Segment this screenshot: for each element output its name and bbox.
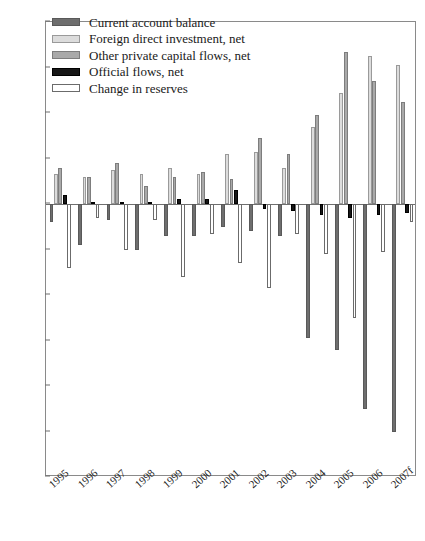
bar bbox=[153, 204, 157, 220]
chart-container: 806040200−20−40−60−80−100−120 1995199619… bbox=[0, 0, 425, 541]
bar bbox=[353, 204, 357, 318]
legend-item: Other private capital flows, net bbox=[52, 47, 282, 64]
legend-item: Foreign direct investment, net bbox=[52, 31, 282, 48]
y-axis-tick-mark bbox=[45, 112, 50, 113]
legend-swatch-icon bbox=[52, 35, 80, 43]
bar bbox=[78, 204, 82, 245]
bar-group bbox=[331, 22, 360, 475]
bar bbox=[111, 170, 115, 204]
bar bbox=[210, 204, 214, 234]
bar bbox=[339, 93, 343, 204]
bar bbox=[267, 204, 271, 288]
bar-group bbox=[388, 22, 417, 475]
bar bbox=[278, 204, 282, 236]
bar bbox=[396, 65, 400, 204]
bar bbox=[315, 115, 319, 204]
bar bbox=[230, 179, 234, 204]
bar bbox=[197, 174, 201, 204]
bar bbox=[238, 204, 242, 263]
bar bbox=[291, 204, 295, 211]
bar bbox=[258, 138, 262, 204]
y-axis-tick-mark bbox=[45, 66, 50, 67]
bar bbox=[234, 190, 238, 204]
bar bbox=[120, 202, 124, 204]
bar bbox=[96, 204, 100, 218]
bar bbox=[83, 177, 87, 204]
y-axis-tick-mark bbox=[45, 385, 50, 386]
bar bbox=[249, 204, 253, 231]
y-axis-tick-mark bbox=[45, 157, 50, 158]
y-axis-tick-mark bbox=[45, 476, 50, 477]
bar bbox=[201, 172, 205, 204]
bar bbox=[140, 174, 144, 204]
legend-swatch-icon bbox=[52, 84, 80, 92]
y-axis-tick-mark bbox=[45, 21, 50, 22]
bar bbox=[50, 204, 54, 222]
legend-swatch-icon bbox=[52, 18, 80, 26]
legend-label: Official flows, net bbox=[89, 65, 184, 78]
legend-item: Change in reserves bbox=[52, 80, 282, 97]
bar bbox=[344, 52, 348, 204]
bar bbox=[124, 204, 128, 250]
bar bbox=[324, 204, 328, 254]
legend-item: Official flows, net bbox=[52, 64, 282, 81]
legend-swatch-icon bbox=[52, 68, 80, 76]
bar bbox=[144, 186, 148, 204]
bar bbox=[173, 177, 177, 204]
bar bbox=[282, 168, 286, 204]
bar bbox=[306, 204, 310, 338]
bar bbox=[263, 204, 267, 209]
bar bbox=[392, 204, 396, 432]
y-axis-tick-mark bbox=[45, 294, 50, 295]
bar bbox=[287, 154, 291, 204]
bar bbox=[335, 204, 339, 350]
legend-label: Change in reserves bbox=[89, 82, 188, 95]
legend-item: Current account balance bbox=[52, 14, 282, 31]
bar bbox=[221, 204, 225, 227]
bar bbox=[295, 204, 299, 234]
legend-swatch-icon bbox=[52, 51, 80, 59]
bar bbox=[168, 168, 172, 204]
bar bbox=[164, 204, 168, 236]
bar bbox=[254, 152, 258, 204]
bar bbox=[192, 204, 196, 236]
bar bbox=[381, 204, 385, 252]
bar bbox=[115, 163, 119, 204]
bar bbox=[87, 177, 91, 204]
legend-label: Foreign direct investment, net bbox=[89, 32, 245, 45]
bar bbox=[67, 204, 71, 268]
y-axis-tick-mark bbox=[45, 248, 50, 249]
bar bbox=[377, 204, 381, 215]
bar bbox=[58, 168, 62, 204]
bar bbox=[54, 174, 58, 204]
legend-label: Current account balance bbox=[89, 16, 215, 29]
bar bbox=[181, 204, 185, 277]
bar bbox=[401, 102, 405, 204]
bar bbox=[91, 202, 95, 204]
bar bbox=[107, 204, 111, 220]
bar bbox=[225, 154, 229, 204]
bar bbox=[410, 204, 414, 222]
y-axis-tick-mark bbox=[45, 339, 50, 340]
legend-label: Other private capital flows, net bbox=[89, 49, 250, 62]
bar-group bbox=[360, 22, 389, 475]
bar bbox=[405, 204, 409, 213]
bar bbox=[177, 199, 181, 204]
bar bbox=[63, 195, 67, 204]
bar bbox=[311, 127, 315, 204]
bar bbox=[205, 199, 209, 204]
bar bbox=[372, 81, 376, 204]
bar bbox=[348, 204, 352, 218]
bar bbox=[368, 56, 372, 204]
chart-legend: Current account balanceForeign direct in… bbox=[52, 14, 282, 97]
bar bbox=[148, 202, 152, 204]
y-axis-tick-mark bbox=[45, 430, 50, 431]
bar-group bbox=[303, 22, 332, 475]
bar bbox=[363, 204, 367, 409]
y-axis-tick-mark bbox=[45, 203, 50, 204]
bar bbox=[135, 204, 139, 250]
bar bbox=[320, 204, 324, 215]
